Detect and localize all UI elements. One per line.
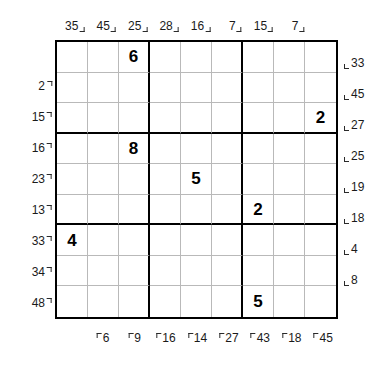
- grid-cell[interactable]: [212, 225, 243, 256]
- grid-cell[interactable]: [57, 134, 88, 165]
- grid-cell[interactable]: [243, 256, 274, 287]
- grid-cell[interactable]: [181, 103, 212, 134]
- grid-cell[interactable]: [305, 164, 336, 195]
- grid-cell[interactable]: [119, 164, 150, 195]
- grid-cell[interactable]: [150, 256, 181, 287]
- clue-bracket-left-icon: [344, 219, 349, 224]
- grid-cell[interactable]: [57, 103, 88, 134]
- grid-cell[interactable]: [119, 256, 150, 287]
- grid-cell[interactable]: [150, 103, 181, 134]
- grid-cell[interactable]: [150, 286, 181, 317]
- grid-cell[interactable]: [181, 134, 212, 165]
- grid-cell[interactable]: [150, 73, 181, 104]
- grid-cell[interactable]: [150, 195, 181, 226]
- grid-cell[interactable]: [150, 42, 181, 73]
- grid-cell[interactable]: [212, 134, 243, 165]
- grid-cell[interactable]: [88, 134, 119, 165]
- grid-cell[interactable]: [212, 103, 243, 134]
- grid-cell[interactable]: [181, 42, 212, 73]
- grid-cell[interactable]: [181, 195, 212, 226]
- grid-cell[interactable]: [305, 225, 336, 256]
- grid-cell[interactable]: [305, 256, 336, 287]
- bottom-clue: 9: [128, 332, 141, 344]
- grid-cell[interactable]: [150, 164, 181, 195]
- grid-cell[interactable]: [243, 225, 274, 256]
- grid-cell[interactable]: [57, 42, 88, 73]
- grid-cell[interactable]: [57, 286, 88, 317]
- grid-cell[interactable]: [181, 256, 212, 287]
- grid-cell[interactable]: 2: [243, 195, 274, 226]
- grid-cell[interactable]: [305, 286, 336, 317]
- grid-cell[interactable]: [212, 164, 243, 195]
- grid-cell[interactable]: 5: [243, 286, 274, 317]
- grid-cell[interactable]: [243, 42, 274, 73]
- grid-cell[interactable]: [212, 195, 243, 226]
- grid-cell[interactable]: [305, 195, 336, 226]
- grid-cell[interactable]: [305, 73, 336, 104]
- grid-cell[interactable]: [88, 164, 119, 195]
- grid-cell[interactable]: [88, 42, 119, 73]
- grid-cell[interactable]: [57, 73, 88, 104]
- left-clue: 33: [32, 235, 52, 247]
- grid-cell[interactable]: [88, 225, 119, 256]
- grid-cell[interactable]: [150, 134, 181, 165]
- grid-cell[interactable]: [305, 42, 336, 73]
- grid-cell[interactable]: [88, 286, 119, 317]
- clue-bracket-right-icon: [47, 298, 52, 303]
- left-clue-value: 13: [32, 204, 45, 216]
- grid-cell[interactable]: [243, 73, 274, 104]
- grid-cell[interactable]: [212, 256, 243, 287]
- grid-cell[interactable]: 5: [181, 164, 212, 195]
- grid-cell[interactable]: [119, 225, 150, 256]
- clue-bracket-up-icon: [156, 333, 161, 338]
- grid-cell[interactable]: [119, 103, 150, 134]
- right-clue-value: 33: [351, 57, 364, 69]
- grid-cell[interactable]: 6: [119, 42, 150, 73]
- left-clue-value: 48: [32, 297, 45, 309]
- grid-cell[interactable]: [243, 103, 274, 134]
- grid-cell[interactable]: 8: [119, 134, 150, 165]
- grid-cell[interactable]: [274, 42, 305, 73]
- clue-bracket-down-icon: [79, 27, 84, 32]
- grid-cell[interactable]: [305, 134, 336, 165]
- grid-cell[interactable]: [57, 256, 88, 287]
- top-clue-value: 35: [65, 20, 78, 32]
- grid-cell[interactable]: [119, 195, 150, 226]
- grid-cell[interactable]: [57, 164, 88, 195]
- right-clue: 27: [344, 119, 364, 131]
- grid-cell[interactable]: [274, 256, 305, 287]
- clue-bracket-left-icon: [344, 281, 349, 286]
- grid-cell[interactable]: [274, 195, 305, 226]
- clue-bracket-down-icon: [205, 27, 210, 32]
- grid-cell[interactable]: 2: [305, 103, 336, 134]
- grid-cell[interactable]: [119, 286, 150, 317]
- grid-cell[interactable]: [274, 225, 305, 256]
- grid-cell[interactable]: [88, 256, 119, 287]
- grid-cell[interactable]: [88, 73, 119, 104]
- grid-cell[interactable]: [181, 286, 212, 317]
- grid-cell[interactable]: [181, 225, 212, 256]
- grid-cell[interactable]: [150, 225, 181, 256]
- grid-cell[interactable]: [274, 286, 305, 317]
- grid-cell[interactable]: [274, 164, 305, 195]
- grid-cell[interactable]: [212, 286, 243, 317]
- grid-cell[interactable]: [119, 73, 150, 104]
- grid-cell[interactable]: [212, 42, 243, 73]
- grid-cell[interactable]: [243, 134, 274, 165]
- frame-sudoku-puzzle: 6285245 35452528167157215162313333448334…: [0, 0, 392, 372]
- grid-cell[interactable]: [274, 103, 305, 134]
- grid-cell[interactable]: [274, 134, 305, 165]
- left-clue: 13: [32, 204, 52, 216]
- clue-bracket-right-icon: [47, 267, 52, 272]
- left-clue: 15: [32, 111, 52, 123]
- grid-cell[interactable]: [243, 164, 274, 195]
- grid-cell[interactable]: [57, 195, 88, 226]
- grid-cell[interactable]: [88, 195, 119, 226]
- sudoku-grid[interactable]: 6285245: [55, 40, 338, 319]
- grid-cell[interactable]: [88, 103, 119, 134]
- grid-cell[interactable]: [181, 73, 212, 104]
- grid-cell[interactable]: [212, 73, 243, 104]
- grid-cell[interactable]: [274, 73, 305, 104]
- grid-cell[interactable]: 4: [57, 225, 88, 256]
- left-clue: 34: [32, 266, 52, 278]
